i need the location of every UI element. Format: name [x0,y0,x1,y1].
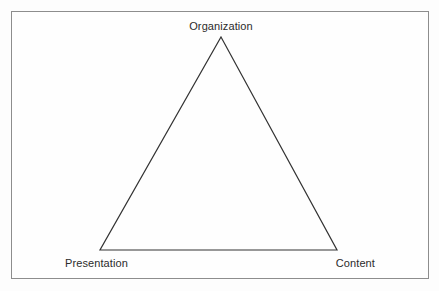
vertex-label-content: Content [336,257,375,270]
vertex-label-presentation: Presentation [65,257,128,270]
figure-frame [11,11,429,279]
vertex-label-organization: Organization [189,20,253,33]
figure-root: Organization Presentation Content [0,0,439,291]
